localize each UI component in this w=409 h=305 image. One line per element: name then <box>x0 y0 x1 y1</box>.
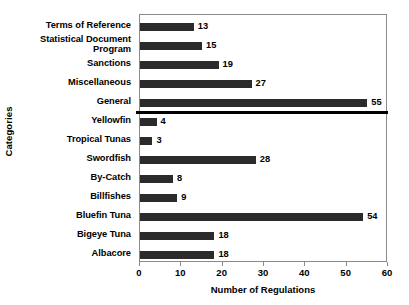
plot-area: 1315192755432889541818 <box>139 14 387 262</box>
y-axis-tick-label: Bluefin Tuna <box>76 210 131 220</box>
x-axis-tick-label: 10 <box>175 267 186 278</box>
bar-chart: Categories Terms of ReferenceStatistical… <box>0 0 409 305</box>
y-axis-tick-labels: Terms of ReferenceStatistical Document P… <box>16 14 135 262</box>
y-axis-tick-label: Terms of Reference <box>46 20 131 30</box>
x-axis-title: Number of Regulations <box>139 284 387 295</box>
bar <box>140 175 173 183</box>
y-axis-tick-label: Albacore <box>92 248 131 258</box>
bars-container: 1315192755432889541818 <box>140 15 386 261</box>
y-axis-tick-label: Statistical Document Program <box>40 34 131 54</box>
bar-value-label: 15 <box>206 41 216 49</box>
bar-value-label: 13 <box>198 22 208 30</box>
y-axis-tick-label: Tropical Tunas <box>67 134 131 144</box>
x-axis-tick-label: 20 <box>216 267 227 278</box>
x-axis-tick <box>263 262 264 266</box>
bar <box>140 194 177 202</box>
bar-value-label: 19 <box>223 60 233 68</box>
bar-value-label: 27 <box>256 79 266 87</box>
x-axis-tick <box>139 262 140 266</box>
bar <box>140 213 363 221</box>
y-axis-tick-label: General <box>97 96 131 106</box>
x-axis-tick <box>387 262 388 266</box>
y-axis-tick-label: Bigeye Tuna <box>77 229 131 239</box>
y-axis-tick-label: Sanctions <box>87 58 131 68</box>
bar-value-label: 9 <box>181 193 186 201</box>
x-axis-tick-label: 60 <box>382 267 393 278</box>
x-axis-tick-labels: 0102030405060 <box>139 267 387 281</box>
x-axis-tick-label: 40 <box>299 267 310 278</box>
bar-value-label: 18 <box>218 231 228 239</box>
bar <box>140 99 367 107</box>
bar <box>140 118 157 126</box>
y-axis-tick-label: Swordfish <box>87 153 132 163</box>
x-axis-tick-label: 30 <box>258 267 269 278</box>
bar <box>140 61 219 69</box>
bar <box>140 251 214 259</box>
x-axis-tick-label: 0 <box>136 267 141 278</box>
y-axis-tick-label: Yellowfin <box>91 115 131 125</box>
y-axis-tick-label: Billfishes <box>90 191 131 201</box>
bar-value-label: 18 <box>218 250 228 258</box>
bar-value-label: 8 <box>177 174 182 182</box>
x-axis-tick <box>304 262 305 266</box>
x-axis-tick <box>180 262 181 266</box>
bar <box>140 156 256 164</box>
bar-value-label: 28 <box>260 155 270 163</box>
y-axis-title-label: Categories <box>3 106 14 156</box>
group-divider-line <box>136 111 388 114</box>
bar-value-label: 54 <box>367 212 377 220</box>
bar-value-label: 55 <box>371 98 381 106</box>
bar <box>140 23 194 31</box>
x-axis-tick <box>222 262 223 266</box>
bar <box>140 232 214 240</box>
y-axis-tick-label: Miscellaneous <box>68 77 131 87</box>
bar-value-label: 4 <box>161 117 166 125</box>
bar <box>140 137 152 145</box>
bar <box>140 42 202 50</box>
bar <box>140 80 252 88</box>
y-axis-tick-label: By-Catch <box>91 172 131 182</box>
bar-value-label: 3 <box>156 136 161 144</box>
x-axis-tick-label: 50 <box>340 267 351 278</box>
x-axis-tick <box>346 262 347 266</box>
y-axis-title: Categories <box>0 0 16 262</box>
